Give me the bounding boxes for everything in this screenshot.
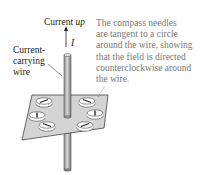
current-label: Current up [44,17,85,28]
wire-lower [64,128,71,170]
compass-bottom-right [77,122,93,131]
wire-top-end [64,54,71,57]
wire-upper [64,55,71,117]
compass-bottom-left [39,122,55,131]
wire-label: Current- carrying wire [13,45,45,78]
compass-left [29,112,45,121]
compass-right [87,110,103,119]
caption: The compass needles are tangent to a cir… [96,18,206,85]
wire-label-leader [48,64,62,76]
current-label-text: Current [44,17,75,27]
current-symbol: I [71,38,74,49]
compass-top-left [36,98,52,107]
compass-top-right [79,98,95,107]
current-direction-text: up [75,17,85,27]
